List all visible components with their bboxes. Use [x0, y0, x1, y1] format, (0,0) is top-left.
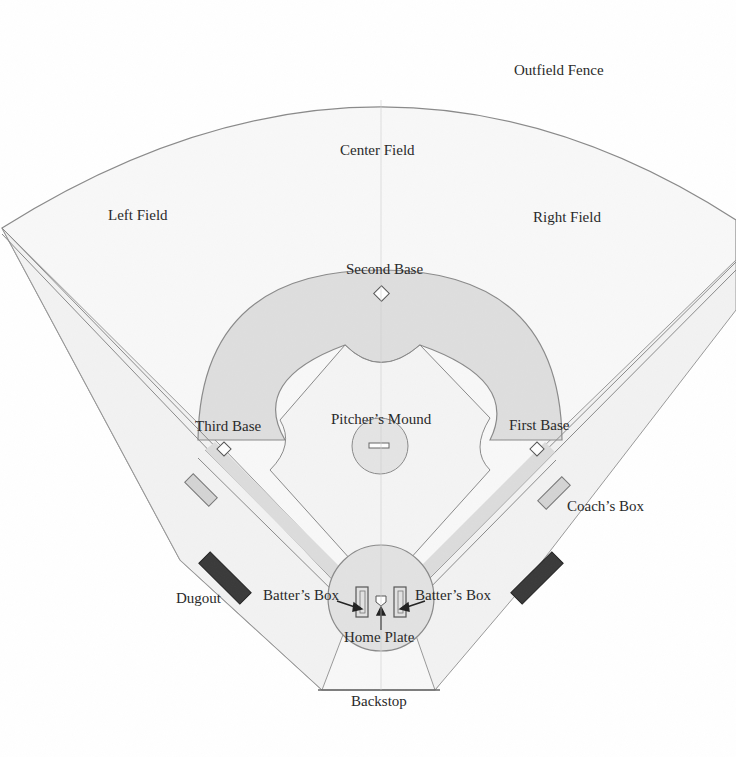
label-dugout: Dugout	[176, 591, 221, 606]
label-third-base: Third Base	[195, 419, 261, 434]
label-pitchers-mound: Pitcher’s Mound	[331, 412, 431, 427]
label-batters-box-left: Batter’s Box	[263, 588, 339, 603]
label-right-field: Right Field	[533, 210, 601, 225]
baseball-field-diagram: Outfield Fence Center Field Left Field R…	[0, 0, 736, 757]
label-batters-box-right: Batter’s Box	[415, 588, 491, 603]
label-outfield-fence: Outfield Fence	[514, 63, 604, 78]
label-center-field: Center Field	[340, 143, 415, 158]
label-coachs-box: Coach’s Box	[567, 499, 644, 514]
label-left-field: Left Field	[108, 208, 168, 223]
label-first-base: First Base	[509, 418, 569, 433]
label-backstop: Backstop	[351, 694, 407, 709]
label-home-plate: Home Plate	[344, 630, 414, 645]
label-second-base: Second Base	[346, 262, 423, 277]
